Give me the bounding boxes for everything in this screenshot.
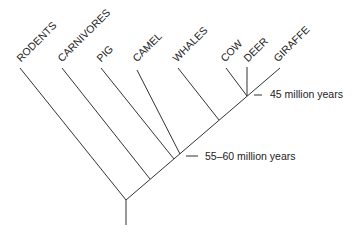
annotation-55-60-million: 55–60 million years [205, 151, 295, 162]
phylogenetic-tree: RODENTS CARNIVORES PIG CAMEL WHALES COW … [0, 0, 362, 232]
annotation-45-million: 45 million years [270, 89, 343, 100]
